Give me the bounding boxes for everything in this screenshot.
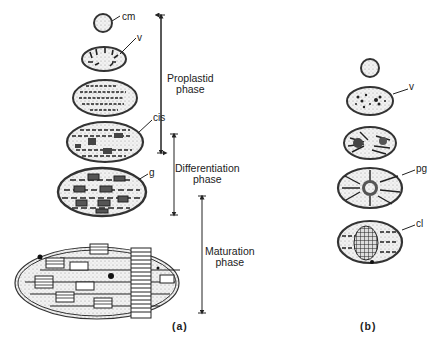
label-pg: pg — [416, 163, 427, 174]
plastid-b3 — [344, 127, 396, 159]
label-cis: cis — [153, 112, 165, 123]
plastid-b4 — [338, 168, 402, 208]
panel-b-label: (b) — [360, 320, 376, 332]
differentiation-phase-label: Differentiation phase — [175, 163, 240, 185]
leader-v-b — [393, 89, 408, 94]
maturation-phase-label: Maturation phase — [205, 246, 255, 268]
leader-cis — [138, 120, 152, 133]
label-cl: cl — [416, 218, 423, 229]
panel-b-plastids — [338, 59, 415, 264]
plastid-a4 — [67, 122, 143, 162]
plastid-a6-mature-chloroplast — [15, 244, 180, 319]
panel-a-plastids — [15, 14, 180, 319]
leader-cl — [402, 225, 415, 230]
leader-cm — [112, 16, 120, 21]
plastid-a5 — [58, 168, 146, 216]
label-v-a: v — [137, 32, 142, 43]
plastid-a1-proplastid — [94, 14, 112, 32]
leader-g — [138, 174, 148, 180]
panel-a-label: (a) — [172, 320, 188, 332]
plastid-b5 — [338, 221, 402, 264]
label-cm: cm — [122, 11, 135, 22]
label-v-b: v — [409, 81, 414, 92]
plastid-b2 — [347, 87, 393, 115]
proplastid-phase-label: Proplastid phase — [167, 73, 214, 95]
label-g: g — [149, 167, 155, 178]
plastid-a2 — [82, 47, 126, 71]
plastid-a3 — [73, 80, 137, 116]
leader-v-a — [120, 38, 136, 54]
leader-pg — [402, 170, 415, 175]
